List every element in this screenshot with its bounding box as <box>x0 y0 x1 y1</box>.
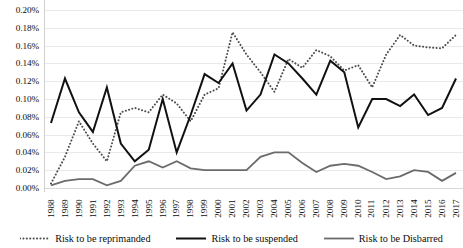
x-axis-tick-label: 2014 <box>410 199 419 217</box>
x-axis-tick-label: 2009 <box>340 199 349 217</box>
x-axis-tick-label: 2002 <box>242 199 251 217</box>
x-axis-tick-1989: 1989 <box>59 189 71 229</box>
x-axis-tick-1994: 1994 <box>129 189 141 229</box>
x-axis-tick-label: 1994 <box>130 199 139 217</box>
x-axis-tick-1992: 1992 <box>101 189 113 229</box>
x-axis-tick-label: 2000 <box>214 199 223 217</box>
x-axis-tick-2003: 2003 <box>254 189 266 229</box>
x-axis-tick-1997: 1997 <box>171 189 183 229</box>
x-axis-tick-label: 2012 <box>382 199 391 217</box>
y-axis-tick-label: 0.06% <box>16 130 39 140</box>
y-axis-tick-label: 0.16% <box>16 41 39 51</box>
x-axis-tick-label: 2007 <box>312 199 321 217</box>
x-axis-tick-2000: 2000 <box>213 189 225 229</box>
plot-area <box>44 0 463 192</box>
x-axis-tick-1990: 1990 <box>73 189 85 229</box>
y-axis-tick-label: 0.18% <box>16 23 39 33</box>
legend-item-risk-to-be-suspended[interactable]: Risk to be suspended <box>176 233 297 244</box>
x-axis-tick-label: 1991 <box>88 199 97 217</box>
x-axis-tick-label: 2013 <box>396 199 405 217</box>
x-axis-tick-label: 1995 <box>144 199 153 217</box>
y-axis-tick-label: 0.08% <box>16 112 39 122</box>
y-axis-tick-label: 0.02% <box>16 165 39 175</box>
x-axis-tick-1991: 1991 <box>87 189 99 229</box>
x-axis-tick-2010: 2010 <box>352 189 364 229</box>
x-axis-tick-label: 1993 <box>116 199 125 217</box>
x-axis-tick-label: 2011 <box>368 200 377 218</box>
legend-item-risk-to-be-reprimanded[interactable]: Risk to be reprimanded <box>20 233 150 244</box>
x-axis-tick-label: 2008 <box>326 199 335 217</box>
x-axis-tick-label: 2017 <box>451 199 460 217</box>
x-axis-tick-label: 2003 <box>256 199 265 217</box>
x-axis-tick-label: 1999 <box>200 199 209 217</box>
x-axis-tick-2007: 2007 <box>310 189 322 229</box>
x-axis-tick-label: 1998 <box>186 199 195 217</box>
x-axis-tick-2013: 2013 <box>394 189 406 229</box>
x-axis-tick-2006: 2006 <box>296 189 308 229</box>
legend-swatch-icon <box>20 235 50 242</box>
x-axis-tick-label: 2010 <box>354 199 363 217</box>
legend-label: Risk to be suspended <box>211 233 297 244</box>
legend-label: Risk to be reprimanded <box>55 233 150 244</box>
series-lines <box>44 0 463 192</box>
x-axis-tick-label: 1997 <box>172 199 181 217</box>
x-axis-tick-label: 2005 <box>284 199 293 217</box>
x-axis-tick-2016: 2016 <box>436 189 448 229</box>
risk-outcomes-line-chart: 0.20%0.18%0.16%0.14%0.12%0.10%0.08%0.06%… <box>0 0 463 248</box>
x-axis-tick-2015: 2015 <box>422 189 434 229</box>
x-axis-tick-2008: 2008 <box>324 189 336 229</box>
legend-swatch-icon <box>324 235 354 242</box>
x-axis-tick-label: 1992 <box>102 199 111 217</box>
legend-swatch-icon <box>176 235 206 242</box>
y-axis-tick-label: 0.00% <box>16 183 39 193</box>
x-axis-tick-2012: 2012 <box>380 189 392 229</box>
plot-region: 0.20%0.18%0.16%0.14%0.12%0.10%0.08%0.06%… <box>0 0 463 192</box>
x-axis: 1988198919901991199219931994199519961997… <box>44 189 463 231</box>
y-axis-tick-label: 0.20% <box>16 5 39 15</box>
x-axis-tick-2005: 2005 <box>282 189 294 229</box>
x-axis-tick-2011: 2011 <box>366 189 378 229</box>
x-axis-tick-label: 1996 <box>158 199 167 217</box>
x-axis-tick-1995: 1995 <box>143 189 155 229</box>
y-axis-tick-label: 0.14% <box>16 58 39 68</box>
x-axis-tick-2009: 2009 <box>338 189 350 229</box>
x-axis-tick-1988: 1988 <box>45 189 57 229</box>
x-axis-tick-1993: 1993 <box>115 189 127 229</box>
x-axis-tick-2014: 2014 <box>408 189 420 229</box>
y-axis-tick-label: 0.10% <box>16 94 39 104</box>
x-axis-tick-1996: 1996 <box>157 189 169 229</box>
x-axis-tick-label: 2015 <box>423 199 432 217</box>
series-line-risk-to-be-suspended <box>51 55 456 162</box>
x-axis-tick-label: 1990 <box>74 199 83 217</box>
x-axis-tick-2001: 2001 <box>227 189 239 229</box>
legend-item-risk-to-be-disbarred[interactable]: Risk to be Disbarred <box>324 233 443 244</box>
x-axis-tick-label: 2016 <box>437 199 446 217</box>
x-axis-tick-label: 1989 <box>60 199 69 217</box>
x-axis-tick-1999: 1999 <box>199 189 211 229</box>
x-axis-tick-label: 2004 <box>270 199 279 217</box>
legend-label: Risk to be Disbarred <box>359 233 443 244</box>
y-axis-tick-label: 0.04% <box>16 147 39 157</box>
x-axis-tick-1998: 1998 <box>185 189 197 229</box>
x-axis-tick-label: 2001 <box>228 199 237 217</box>
x-axis-tick-2002: 2002 <box>241 189 253 229</box>
x-axis-tick-2004: 2004 <box>268 189 280 229</box>
x-axis-tick-label: 1988 <box>46 199 55 217</box>
x-axis-tick-2017: 2017 <box>450 189 462 229</box>
y-axis: 0.20%0.18%0.16%0.14%0.12%0.10%0.08%0.06%… <box>0 0 42 192</box>
series-line-risk-to-be-disbarred <box>51 152 456 185</box>
x-axis-tick-label: 2006 <box>298 199 307 217</box>
y-axis-tick-label: 0.12% <box>16 76 39 86</box>
chart-legend: Risk to be reprimandedRisk to be suspend… <box>0 228 463 248</box>
